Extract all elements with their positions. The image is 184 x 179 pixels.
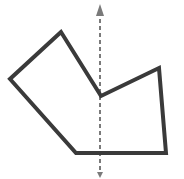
arrow-down-icon — [97, 172, 103, 178]
diagram-canvas — [0, 0, 184, 179]
arrow-up-icon — [96, 4, 104, 16]
concave-hexagon — [10, 32, 166, 153]
